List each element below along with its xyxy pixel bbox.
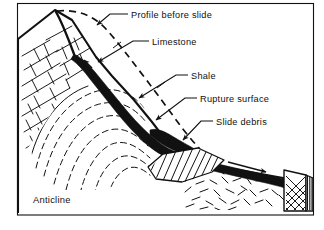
label-anticline: Anticline	[33, 194, 71, 205]
label-profile-before-slide: Profile before slide	[131, 10, 212, 20]
figure-root: Profile before slide Limestone Shale Rup…	[0, 0, 324, 230]
label-shale: Shale	[191, 71, 216, 81]
label-slide-debris: Slide debris	[216, 117, 267, 127]
label-rupture-surface: Rupture surface	[200, 94, 269, 104]
cross-section-diagram: Profile before slide Limestone Shale Rup…	[0, 0, 324, 230]
label-limestone: Limestone	[152, 37, 197, 47]
vertical-line-block	[306, 175, 313, 212]
